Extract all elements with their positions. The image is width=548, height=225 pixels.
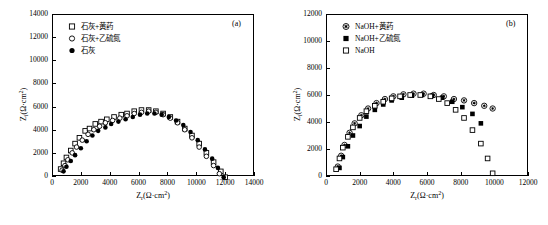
data-point <box>408 93 413 98</box>
data-point <box>203 147 208 152</box>
y-tick-label: 8000 <box>284 63 322 72</box>
y-tick-label: 0 <box>10 171 48 180</box>
legend-item: 石灰 <box>66 45 120 56</box>
open-square-icon <box>66 21 78 32</box>
data-point <box>190 136 195 141</box>
x-tick <box>254 172 255 176</box>
y-tick-label: 4000 <box>10 125 48 134</box>
data-point <box>69 36 74 41</box>
data-point <box>181 123 186 128</box>
data-point <box>485 156 490 161</box>
data-point <box>364 109 369 114</box>
filled-square-icon <box>340 33 352 44</box>
data-point <box>346 144 351 149</box>
y-tick-label: 12000 <box>284 9 322 18</box>
data-point <box>351 125 356 130</box>
data-point <box>398 94 403 99</box>
filled-circle-icon <box>66 45 78 56</box>
x-tick-label: 12000 <box>510 178 546 187</box>
y-axis-title: Zi(Ω·cm2) <box>18 88 29 121</box>
data-point <box>461 98 466 103</box>
data-point <box>109 122 114 127</box>
data-point <box>482 103 487 108</box>
data-point <box>389 96 394 101</box>
x-tick-label: 4000 <box>375 178 411 187</box>
data-point <box>131 115 136 120</box>
legend-item: NaOH+黄药 <box>340 21 400 32</box>
data-point <box>204 154 209 159</box>
data-point <box>341 145 346 150</box>
circled-star-icon <box>340 21 352 32</box>
data-point <box>167 115 172 120</box>
x-axis-title: Zr(Ω·cm2) <box>326 190 528 201</box>
legend: NaOH+黄药NaOH+乙硫氮NaOH <box>340 21 400 57</box>
data-point <box>479 121 484 126</box>
data-point <box>490 171 495 176</box>
data-point <box>182 127 187 132</box>
data-point <box>152 111 157 116</box>
legend-label: NaOH <box>355 45 375 56</box>
y-tick-label: 12000 <box>10 32 48 41</box>
data-point <box>116 119 121 124</box>
data-point <box>73 153 78 158</box>
figure: 0200040006000800010000120001400002000400… <box>0 0 548 225</box>
y-tick-label: 8000 <box>10 78 48 87</box>
data-point <box>470 112 475 117</box>
data-point <box>93 122 98 127</box>
data-point <box>334 167 339 172</box>
data-point <box>138 112 143 117</box>
data-point <box>216 166 221 171</box>
data-point <box>453 108 458 113</box>
data-point <box>357 124 362 129</box>
data-point <box>99 119 104 124</box>
legend-label: NaOH+黄药 <box>355 21 393 32</box>
data-point <box>471 100 476 105</box>
chart-panel-b: 0200040006000800010000120000200040006000… <box>274 0 548 225</box>
data-point <box>69 48 74 53</box>
y-tick-label: 4000 <box>284 117 322 126</box>
data-point <box>103 120 108 125</box>
y-tick-label: 10000 <box>284 36 322 45</box>
legend-item: 石灰+黄药 <box>66 21 120 32</box>
legend-label: 石灰+黄药 <box>81 21 113 32</box>
data-point <box>364 114 369 119</box>
data-point <box>68 159 73 164</box>
data-point <box>159 112 164 117</box>
x-tick-label: 14000 <box>236 178 272 187</box>
data-point <box>445 101 450 106</box>
data-point <box>217 171 222 176</box>
legend: 石灰+黄药石灰+乙硫氮石灰 <box>66 21 120 57</box>
data-point <box>195 138 200 143</box>
x-axis-title: Zr(Ω·cm2) <box>52 190 254 201</box>
open-square-icon <box>340 45 352 56</box>
data-point <box>343 48 348 53</box>
data-point <box>357 116 362 121</box>
data-point <box>460 105 465 110</box>
legend-label: 石灰 <box>81 45 95 56</box>
data-point <box>490 106 495 111</box>
data-point <box>64 164 69 169</box>
y-tick-label: 10000 <box>10 55 48 64</box>
data-point <box>87 126 92 131</box>
data-point <box>210 156 215 161</box>
x-tick-label: 2000 <box>342 178 378 187</box>
data-point <box>343 36 348 41</box>
data-point <box>174 118 179 123</box>
chart-panel-a: 0200040006000800010000120001400002000400… <box>0 0 274 225</box>
data-point <box>373 104 378 109</box>
data-point <box>221 175 226 180</box>
y-axis-title: Zi(Ω·cm2) <box>292 88 303 121</box>
legend-item: 石灰+乙硫氮 <box>66 33 120 44</box>
y-tick-label: 14000 <box>10 9 48 18</box>
data-point <box>436 97 441 102</box>
data-point <box>351 133 356 138</box>
open-circle-icon <box>66 33 78 44</box>
y-tick-label: 2000 <box>284 144 322 153</box>
data-point <box>188 130 193 135</box>
data-point <box>197 145 202 150</box>
y-tick <box>52 176 56 177</box>
data-point <box>96 129 101 134</box>
legend-item: NaOH <box>340 45 400 56</box>
data-point <box>90 133 95 138</box>
y-tick-label: 2000 <box>10 148 48 157</box>
